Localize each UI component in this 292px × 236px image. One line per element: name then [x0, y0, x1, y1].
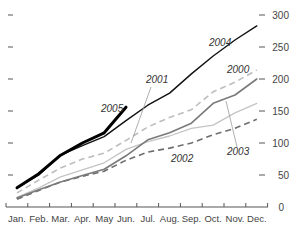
label-leader-lines: [131, 87, 237, 147]
series-label-2005: 2005: [100, 103, 124, 114]
y-tick-label: 250: [272, 42, 289, 53]
series-label-2003: 2003: [226, 146, 250, 157]
x-tick-label: Jun.: [117, 213, 135, 224]
series-line-2002: [17, 119, 257, 199]
x-tick-label: Oct.: [204, 213, 221, 224]
series-label-2001: 2001: [145, 74, 168, 85]
series-line-2000: [17, 70, 257, 193]
y-tick-label: 100: [272, 138, 289, 149]
x-tick-label: Nov.: [226, 213, 245, 224]
x-axis: Jan.Feb.Mar.Apr.MayJun.Jul.Aug.Sep.Oct.N…: [6, 203, 268, 224]
series-labels: 200520012004200020022003: [100, 37, 250, 164]
x-tick-label: Dec.: [247, 213, 267, 224]
series-line-2005: [17, 107, 126, 188]
y-tick-label: 50: [278, 170, 290, 181]
x-tick-label: Apr.: [74, 213, 91, 224]
x-tick-label: Mar.: [51, 213, 69, 224]
y-tick-label: 200: [272, 74, 289, 85]
y-tick-label: 0: [278, 202, 284, 213]
x-tick-label: Feb.: [29, 213, 48, 224]
y-tick-label: 300: [272, 10, 289, 21]
x-tick-label: May: [95, 213, 113, 224]
series-lines: [17, 26, 257, 199]
line-chart: 050100150200250300 Jan.Feb.Mar.Apr.MayJu…: [0, 0, 292, 236]
y-tick-label: 150: [272, 106, 289, 117]
leader-line-2003: [226, 101, 237, 147]
series-line-2001: [17, 103, 257, 197]
x-tick-label: Jan.: [8, 213, 26, 224]
x-tick-label: Aug.: [160, 213, 180, 224]
x-tick-label: Jul.: [140, 213, 155, 224]
x-tick-label: Sep.: [182, 213, 202, 224]
series-label-2000: 2000: [226, 64, 250, 75]
series-label-2002: 2002: [170, 153, 194, 164]
series-label-2004: 2004: [208, 37, 232, 48]
